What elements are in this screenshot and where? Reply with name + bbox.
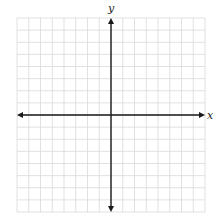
y-axis-label: y [107,2,115,15]
x-axis-label: x [207,109,214,122]
y-axis-bottom-arrow-icon [108,206,114,212]
axes [17,18,205,212]
y-axis-top-arrow-icon [108,18,114,24]
x-axis-right-arrow-icon [199,112,205,118]
coordinate-plane: x y [0,0,220,221]
x-axis-left-arrow-icon [17,112,23,118]
